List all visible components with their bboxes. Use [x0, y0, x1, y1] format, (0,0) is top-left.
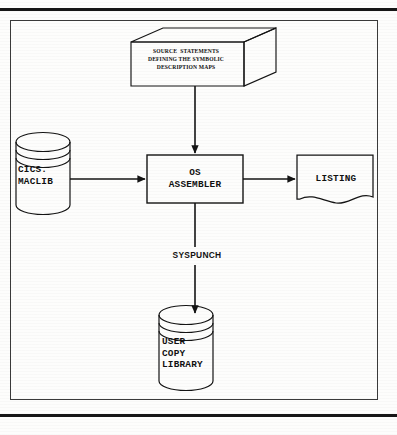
- scanned-page: SOURCE STATEMENTS DEFINING THE SYMBOLIC …: [0, 0, 397, 435]
- page-rule-bottom: [0, 414, 397, 417]
- diagram-frame: [10, 20, 378, 400]
- page-rule-top: [0, 8, 397, 11]
